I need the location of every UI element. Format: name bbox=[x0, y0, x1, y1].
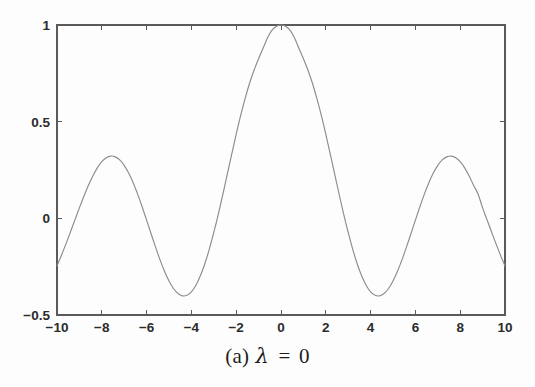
caption-lambda-symbol: λ bbox=[255, 344, 271, 368]
figure-container: −10−8−6−4−20246810−0.500.51 (a) λ = 0 bbox=[0, 0, 535, 387]
y-tick-label: 0.5 bbox=[31, 115, 50, 130]
y-tick-label: 0 bbox=[42, 211, 50, 226]
axes-box bbox=[57, 25, 505, 315]
x-tick-label: −4 bbox=[184, 320, 200, 335]
x-tick-label: 2 bbox=[322, 320, 330, 335]
axes-frame bbox=[57, 25, 505, 315]
caption-index-label: (a) bbox=[225, 344, 249, 368]
x-tick-label: 4 bbox=[367, 320, 375, 335]
data-curve-group bbox=[57, 25, 505, 296]
axis-tick-labels: −10−8−6−4−20246810−0.500.51 bbox=[23, 18, 512, 335]
axis-ticks bbox=[57, 25, 505, 315]
x-tick-label: 6 bbox=[412, 320, 420, 335]
x-tick-label: 10 bbox=[497, 320, 512, 335]
x-tick-label: −6 bbox=[139, 320, 155, 335]
sinc-function-plot: −10−8−6−4−20246810−0.500.51 bbox=[0, 0, 535, 387]
x-tick-label: −2 bbox=[228, 320, 243, 335]
figure-caption: (a) λ = 0 bbox=[0, 344, 535, 369]
caption-equals-sign: = bbox=[276, 344, 294, 368]
data-curve bbox=[57, 25, 505, 296]
x-tick-label: 8 bbox=[456, 320, 464, 335]
caption-lambda-value: 0 bbox=[299, 344, 310, 368]
x-tick-label: −8 bbox=[94, 320, 110, 335]
x-tick-label: 0 bbox=[277, 320, 285, 335]
y-tick-label: −0.5 bbox=[23, 308, 50, 323]
y-tick-label: 1 bbox=[42, 18, 50, 33]
